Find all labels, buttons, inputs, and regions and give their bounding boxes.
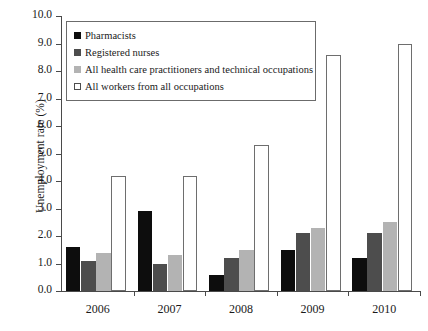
x-axis-tick bbox=[420, 291, 421, 296]
x-axis-tick bbox=[205, 291, 206, 296]
x-axis-label: 2010 bbox=[348, 302, 420, 317]
legend-swatch-icon bbox=[74, 66, 81, 73]
y-axis-tick: 9.0 bbox=[56, 44, 62, 45]
bar bbox=[398, 44, 413, 292]
bar bbox=[367, 233, 382, 291]
legend-label: Pharmacists bbox=[85, 30, 136, 41]
y-axis-tick-label: 4.0 bbox=[38, 173, 52, 185]
y-axis-tick: 4.0 bbox=[56, 181, 62, 182]
chart-legend: Pharmacists Registered nurses All health… bbox=[66, 21, 316, 101]
y-axis-tick: 0.0 bbox=[56, 291, 62, 292]
x-axis-tick bbox=[348, 291, 349, 296]
bar bbox=[224, 258, 239, 291]
bar bbox=[168, 255, 183, 291]
bar bbox=[281, 250, 296, 291]
y-axis-tick-label: 5.0 bbox=[38, 146, 52, 158]
bar bbox=[239, 250, 254, 291]
y-axis-tick: 3.0 bbox=[56, 209, 62, 210]
x-axis-label: 2006 bbox=[62, 302, 134, 317]
y-axis-tick: 8.0 bbox=[56, 71, 62, 72]
y-axis-tick: 7.0 bbox=[56, 99, 62, 100]
bar bbox=[96, 253, 111, 292]
bar bbox=[81, 261, 96, 291]
x-axis-line bbox=[61, 291, 420, 292]
y-axis-tick-label: 2.0 bbox=[38, 228, 52, 240]
y-axis-tick: 5.0 bbox=[56, 154, 62, 155]
legend-label: All health care practitioners and techni… bbox=[85, 64, 313, 75]
bar bbox=[66, 247, 81, 291]
y-axis-tick-label: 7.0 bbox=[38, 91, 52, 103]
x-axis-tick bbox=[134, 291, 135, 296]
bar bbox=[183, 176, 198, 292]
y-axis-tick-label: 9.0 bbox=[38, 36, 52, 48]
y-axis-tick: 1.0 bbox=[56, 264, 62, 265]
bar bbox=[383, 222, 398, 291]
y-axis-tick-label: 10.0 bbox=[32, 8, 52, 20]
y-axis-tick-label: 6.0 bbox=[38, 118, 52, 130]
bar bbox=[352, 258, 367, 291]
x-axis-tick bbox=[277, 291, 278, 296]
bar bbox=[311, 228, 326, 291]
legend-item-health-care-practitioners: All health care practitioners and techni… bbox=[74, 61, 309, 78]
legend-item-all-workers: All workers from all occupations bbox=[74, 78, 309, 95]
bar bbox=[296, 233, 311, 291]
bar bbox=[326, 55, 341, 292]
x-axis-label: 2009 bbox=[277, 302, 349, 317]
y-axis-tick: 6.0 bbox=[56, 126, 62, 127]
y-axis-tick-label: 8.0 bbox=[38, 63, 52, 75]
y-axis-tick: 10.0 bbox=[56, 16, 62, 17]
bar bbox=[153, 264, 168, 292]
x-axis-label: 2007 bbox=[134, 302, 206, 317]
legend-swatch-icon bbox=[74, 49, 81, 56]
legend-label: Registered nurses bbox=[85, 47, 159, 58]
bar bbox=[111, 176, 126, 292]
legend-swatch-icon bbox=[74, 83, 81, 90]
y-axis-tick-label: 1.0 bbox=[38, 256, 52, 268]
y-axis-tick: 2.0 bbox=[56, 236, 62, 237]
y-axis-tick-label: 0.0 bbox=[38, 283, 52, 295]
y-axis-tick-label: 3.0 bbox=[38, 201, 52, 213]
legend-label: All workers from all occupations bbox=[85, 81, 224, 92]
legend-swatch-icon bbox=[74, 32, 81, 39]
bar bbox=[138, 211, 153, 291]
bar bbox=[209, 275, 224, 292]
bar bbox=[254, 145, 269, 291]
x-axis-label: 2008 bbox=[205, 302, 277, 317]
unemployment-rate-bar-chart: Unemployment rate (%) 0.01.02.03.04.05.0… bbox=[0, 0, 428, 331]
legend-item-pharmacists: Pharmacists bbox=[74, 27, 309, 44]
legend-item-registered-nurses: Registered nurses bbox=[74, 44, 309, 61]
